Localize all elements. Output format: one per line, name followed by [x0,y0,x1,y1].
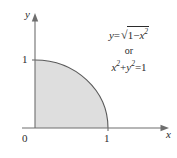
radical-group: √1−x2 [120,26,149,44]
quarter-circle-figure: y x 1 1 0 y=√1−x2 or x2+y2=1 [0,0,177,158]
y-axis-tick-label-1: 1 [22,54,28,65]
radicand-exponent: 2 [144,27,148,36]
x-axis-tick-label-1: 1 [104,133,110,144]
y-axis-arrow-icon [32,13,38,22]
origin-label: 0 [22,133,28,144]
y-axis-label: y [25,9,30,20]
radicand: 1−x2 [127,26,149,44]
circle-rhs: 1 [141,60,147,72]
equation-line-circle: x2+y2=1 [86,59,172,76]
x-axis-label: x [166,129,171,140]
equation-connector: or [86,44,172,59]
equation-line-sqrt: y=√1−x2 [86,26,172,44]
equation-annotation: y=√1−x2 or x2+y2=1 [86,26,172,75]
